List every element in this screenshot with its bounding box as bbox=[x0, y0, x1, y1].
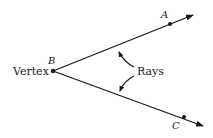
point-a-label: A bbox=[160, 9, 168, 20]
point-b-label: B bbox=[47, 55, 55, 66]
pointer-arrow-upper bbox=[119, 52, 134, 67]
rays-label: Rays bbox=[137, 65, 164, 78]
angle-diagram: Vertex B A C Rays bbox=[0, 0, 213, 138]
pointer-arrow-lower bbox=[120, 76, 134, 91]
point-c-label: C bbox=[172, 120, 180, 131]
ray-ba bbox=[53, 15, 193, 71]
point-c bbox=[182, 115, 186, 119]
vertex-label: Vertex bbox=[12, 65, 50, 78]
vertex-point-b bbox=[51, 69, 55, 73]
point-a bbox=[168, 22, 172, 26]
